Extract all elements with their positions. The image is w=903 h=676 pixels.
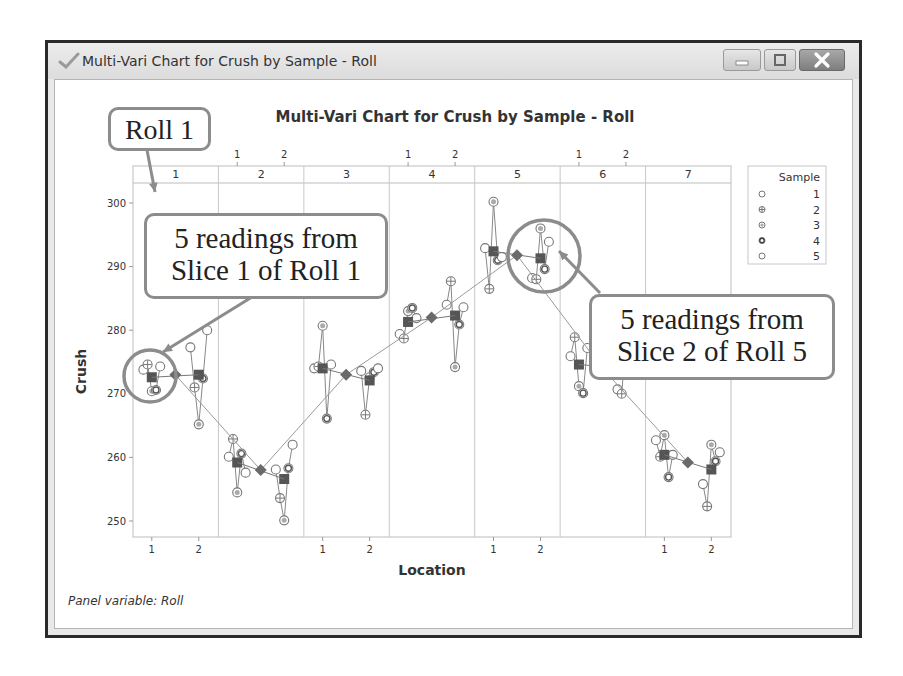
sample-point — [357, 366, 366, 375]
callout-slice2-line2: Slice 2 of Roll 5 — [592, 335, 832, 367]
maximize-button[interactable] — [764, 49, 796, 71]
callout-slice1-roll1: 5 readings from Slice 1 of Roll 1 — [144, 213, 388, 299]
y-tick-label: 280 — [107, 325, 126, 336]
chart-title: Multi-Vari Chart for Crush by Sample - R… — [276, 108, 635, 126]
sample-point — [156, 362, 165, 371]
sample-point — [651, 436, 660, 445]
panel-strip-label: 7 — [685, 168, 692, 181]
maximize-icon — [765, 50, 795, 70]
sample-point — [497, 253, 506, 262]
chart-window: Multi-Vari Chart for Crush by Sample - R… — [45, 40, 862, 638]
legend-entry: 1 — [813, 188, 820, 201]
legend-marker — [759, 253, 765, 259]
x-tick-label: 1 — [576, 149, 582, 160]
sample-point — [715, 448, 724, 457]
x-tick-label: 1 — [490, 544, 496, 555]
x-axis-label: Location — [398, 562, 465, 578]
y-axis-label: Crush — [73, 349, 89, 394]
panel-strip-label: 5 — [514, 168, 521, 181]
close-button[interactable] — [799, 49, 845, 71]
sample-point — [288, 440, 297, 449]
legend-entry: 4 — [813, 235, 820, 248]
callout-slice1-line1: 5 readings from — [147, 222, 385, 254]
x-tick-label: 2 — [452, 149, 458, 160]
panel-strip-label: 3 — [343, 168, 350, 181]
sample-point — [481, 244, 490, 253]
sample-point — [698, 480, 707, 489]
panel-strip-label: 4 — [429, 168, 436, 181]
x-tick-label: 1 — [405, 149, 411, 160]
x-tick-label: 1 — [661, 544, 667, 555]
y-tick-label: 270 — [107, 388, 126, 399]
callout-slice2-roll5: 5 readings from Slice 2 of Roll 5 — [589, 294, 835, 380]
sample-point — [327, 360, 336, 369]
x-tick-label: 2 — [623, 149, 629, 160]
title-bar[interactable]: Multi-Vari Chart for Crush by Sample - R… — [48, 43, 859, 79]
x-tick-label: 2 — [196, 544, 202, 555]
legend-marker — [759, 191, 765, 197]
panel-strip-label: 6 — [599, 168, 606, 181]
panel-strip-label: 1 — [172, 168, 179, 181]
sample-point — [271, 465, 280, 474]
panel-variable-note: Panel variable: Roll — [68, 594, 183, 608]
callout-slice2-line1: 5 readings from — [592, 303, 832, 335]
legend-title: Sample — [779, 171, 820, 184]
y-tick-label: 290 — [107, 261, 126, 272]
window-title: Multi-Vari Chart for Crush by Sample - R… — [82, 53, 377, 69]
minimize-button[interactable] — [723, 49, 761, 71]
x-tick-label: 1 — [149, 544, 155, 555]
callout-slice1-line2: Slice 1 of Roll 1 — [147, 254, 385, 286]
sample-point — [224, 452, 233, 461]
sample-point — [374, 364, 383, 373]
y-tick-label: 250 — [107, 516, 126, 527]
sample-point — [566, 352, 575, 361]
x-tick-label: 2 — [366, 544, 372, 555]
legend-entry: 3 — [813, 219, 820, 232]
x-tick-label: 2 — [537, 544, 543, 555]
legend-entry: 5 — [813, 250, 820, 263]
x-tick-label: 1 — [319, 544, 325, 555]
callout-roll-1: Roll 1 — [108, 107, 211, 151]
panel-strip-label: 2 — [258, 168, 265, 181]
x-tick-label: 2 — [281, 149, 287, 160]
checkmark-app-icon — [58, 52, 80, 70]
chart-area: Multi-Vari Chart for Crush by Sample - R… — [54, 79, 853, 629]
minimize-icon — [724, 50, 760, 70]
sample-point — [186, 343, 195, 352]
legend: Sample12345 — [748, 166, 826, 264]
x-tick-label: 2 — [708, 544, 714, 555]
callout-roll-1-text: Roll 1 — [125, 114, 194, 145]
close-icon — [800, 50, 844, 70]
y-tick-label: 300 — [107, 198, 126, 209]
y-tick-label: 260 — [107, 452, 126, 463]
sample-point — [241, 468, 250, 477]
sample-point — [459, 303, 468, 312]
x-tick-label: 1 — [234, 149, 240, 160]
sample-point — [544, 237, 553, 246]
legend-entry: 2 — [813, 204, 820, 217]
